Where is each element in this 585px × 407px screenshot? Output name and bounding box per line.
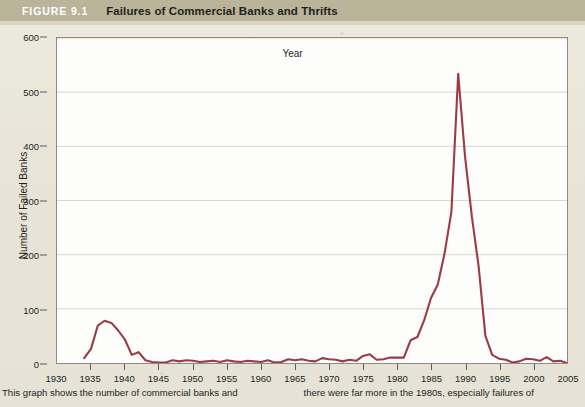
y-tick-label: 100 (23, 304, 39, 315)
caption-column-right: there were far more in the 1980s, especi… (284, 386, 585, 399)
y-tick-label: 300 (23, 195, 39, 206)
y-tick-mark (40, 146, 47, 147)
x-tick-mark (158, 364, 159, 370)
figure-title: Failures of Commercial Banks and Thrifts (106, 5, 338, 17)
x-tick-mark (397, 364, 398, 370)
x-tick-label: 1965 (284, 373, 305, 384)
x-tick-mark (534, 364, 535, 370)
x-tick-label: 1975 (353, 373, 374, 384)
y-tick-mark (40, 309, 47, 310)
x-axis-title: Year (0, 48, 585, 59)
plot-area (56, 37, 568, 364)
y-tick-label: 200 (23, 250, 39, 261)
x-tick-mark (261, 364, 262, 370)
figure-header-band: FIGURE 9.1 Failures of Commercial Banks … (0, 0, 585, 21)
line-chart: Number of Failed Banks 01002003004005006… (0, 25, 585, 380)
caption-column-left: This graph shows the number of commercia… (0, 386, 284, 399)
x-tick-mark (295, 364, 296, 370)
x-tick-label: 1995 (489, 373, 510, 384)
x-tick-label: 1935 (80, 373, 101, 384)
y-tick-mark (40, 200, 47, 201)
figure-number: FIGURE 9.1 (22, 5, 88, 17)
y-tick-mark (40, 255, 47, 256)
y-tick-label: 500 (23, 86, 39, 97)
x-tick-mark (431, 364, 432, 370)
x-tick-label: 1960 (250, 373, 271, 384)
x-tick-label: 1945 (148, 373, 169, 384)
x-tick-mark (363, 364, 364, 370)
x-tick-label: 2000 (523, 373, 544, 384)
x-tick-mark (329, 364, 330, 370)
x-tick-label: 1930 (45, 373, 66, 384)
y-tick-label: 600 (23, 32, 39, 43)
x-tick-label: 1970 (318, 373, 339, 384)
x-tick-label: 1950 (182, 373, 203, 384)
x-tick-label: 1955 (216, 373, 237, 384)
x-tick-mark (124, 364, 125, 370)
x-tick-mark (466, 364, 467, 370)
x-tick-label: 1985 (421, 373, 442, 384)
x-tick-mark (193, 364, 194, 370)
y-tick-mark (40, 37, 47, 38)
figure-caption: This graph shows the number of commercia… (0, 386, 585, 399)
x-tick-label: 1990 (455, 373, 476, 384)
y-tick-mark (40, 91, 47, 92)
y-axis: Number of Failed Banks 01002003004005006… (0, 25, 56, 380)
x-tick-mark (90, 364, 91, 370)
x-tick-label: 1980 (387, 373, 408, 384)
series-failed-banks (57, 38, 567, 363)
y-tick-label: 400 (23, 141, 39, 152)
x-tick-mark (500, 364, 501, 370)
x-tick-label: 1940 (114, 373, 135, 384)
x-tick-label: 2005 (557, 373, 578, 384)
figure-page: FIGURE 9.1 Failures of Commercial Banks … (0, 0, 585, 407)
x-tick-mark (227, 364, 228, 370)
